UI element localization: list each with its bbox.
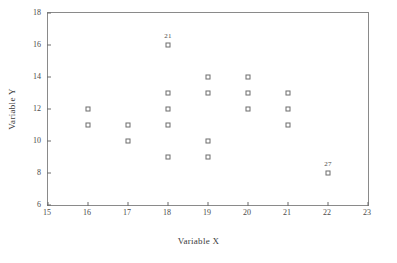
data-point-marker[interactable] <box>286 91 291 96</box>
y-axis-tick-label: 14 <box>25 72 41 81</box>
x-axis-tick-label: 23 <box>363 208 371 217</box>
data-point-marker[interactable] <box>166 43 171 48</box>
x-axis-tick <box>88 202 89 206</box>
x-axis-tick-label: 18 <box>163 208 171 217</box>
x-axis-tick <box>208 202 209 206</box>
data-point-marker[interactable] <box>246 91 251 96</box>
data-point-label: 21 <box>164 33 171 40</box>
data-point-marker[interactable] <box>246 75 251 80</box>
x-axis-tick <box>288 202 289 206</box>
y-axis-tick <box>47 141 51 142</box>
y-axis-tick-label: 6 <box>25 200 41 209</box>
x-axis-title-text: Variable X <box>178 236 220 246</box>
data-point-label: 27 <box>324 161 331 168</box>
data-point-marker[interactable] <box>286 107 291 112</box>
data-point-marker[interactable] <box>286 123 291 128</box>
data-point-marker[interactable] <box>86 123 91 128</box>
y-axis-tick <box>47 13 51 14</box>
x-axis-tick-label: 21 <box>283 208 291 217</box>
data-point-marker[interactable] <box>206 155 211 160</box>
data-point-marker[interactable] <box>126 139 131 144</box>
data-point-marker[interactable] <box>166 123 171 128</box>
plot-frame: 2127 <box>47 12 369 206</box>
y-axis-tick-label: 8 <box>25 168 41 177</box>
data-point-marker[interactable] <box>206 91 211 96</box>
y-axis-tick-label: 18 <box>25 8 41 17</box>
x-axis-tick <box>128 202 129 206</box>
scatter-plot-figure: Variable Y 2127 Variable X 1516171819202… <box>0 0 397 263</box>
x-axis-tick <box>248 202 249 206</box>
y-axis-title-text: Variable Y <box>7 88 17 129</box>
x-axis-tick-label: 16 <box>83 208 91 217</box>
y-axis-tick-label: 16 <box>25 40 41 49</box>
x-axis-tick <box>368 202 369 206</box>
x-axis-tick-label: 19 <box>203 208 211 217</box>
y-axis-tick <box>47 173 51 174</box>
data-point-marker[interactable] <box>166 107 171 112</box>
data-point-marker[interactable] <box>206 75 211 80</box>
x-axis-tick-label: 15 <box>43 208 51 217</box>
y-axis-tick <box>47 109 51 110</box>
x-axis-tick <box>168 202 169 206</box>
data-point-marker[interactable] <box>206 139 211 144</box>
data-point-marker[interactable] <box>166 155 171 160</box>
x-axis-title: Variable X <box>0 236 397 246</box>
plot-area: 2127 <box>48 13 368 205</box>
y-axis-tick <box>47 77 51 78</box>
y-axis-tick <box>47 205 51 206</box>
y-axis-tick-label: 10 <box>25 136 41 145</box>
data-point-marker[interactable] <box>246 107 251 112</box>
x-axis-tick-label: 17 <box>123 208 131 217</box>
x-axis-tick <box>328 202 329 206</box>
data-point-marker[interactable] <box>166 91 171 96</box>
data-point-marker[interactable] <box>126 123 131 128</box>
y-axis-tick <box>47 45 51 46</box>
x-axis-tick-label: 22 <box>323 208 331 217</box>
y-axis-title: Variable Y <box>4 12 20 206</box>
data-point-marker[interactable] <box>326 171 331 176</box>
x-axis-tick-label: 20 <box>243 208 251 217</box>
data-point-marker[interactable] <box>86 107 91 112</box>
y-axis-tick-label: 12 <box>25 104 41 113</box>
